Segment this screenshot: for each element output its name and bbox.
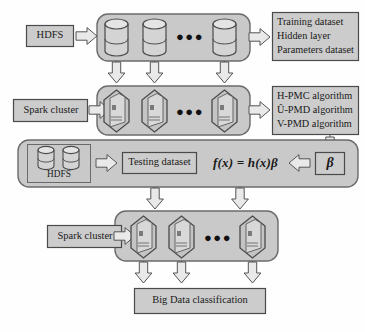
row4-node-1 [131, 216, 156, 258]
row1-node-1 [105, 19, 128, 56]
row1-output-line-2: Hidden layer [277, 30, 330, 42]
row3-storage-cylinder-2 [63, 146, 79, 169]
row1-ellipsis: ●●● [176, 29, 204, 44]
row2-node-3 [212, 90, 237, 132]
row3-formula: f(x) = h(x)β [213, 155, 278, 170]
row4-node-2 [169, 216, 194, 258]
row3-beta-label: β [316, 155, 344, 172]
row2-output-line-3: V-PMD algorithm [277, 118, 352, 130]
row2-source-label: Spark cluster [17, 104, 85, 116]
row4-ellipsis: ●●● [204, 230, 232, 245]
row1-node-2 [143, 19, 166, 56]
row5-result-label: Big Data classification [137, 294, 263, 306]
row1-node-3 [213, 19, 236, 56]
row2-ellipsis: ●●● [176, 104, 204, 119]
row3-storage-label: HDFS [30, 169, 88, 180]
row4-node-3 [240, 216, 265, 258]
row4-source-label: Spark cluster [51, 230, 119, 242]
row3-storage-cylinder-1 [38, 146, 54, 169]
row3-testing-label: Testing dataset [126, 156, 193, 168]
row1-source-label: HDFS [31, 29, 69, 41]
row2-node-1 [104, 90, 129, 132]
row1-output-line-1: Training dataset [277, 16, 343, 28]
row2-output-line-2: Û-PMD algorithm [277, 104, 353, 116]
row1-output-line-3: Parameters dataset [277, 44, 354, 56]
diagram-canvas: HDFS ●●● Training dataset Hidden layer P… [0, 0, 365, 332]
row2-output-line-1: H-PMC algorithm [277, 90, 352, 102]
row2-node-2 [142, 90, 167, 132]
